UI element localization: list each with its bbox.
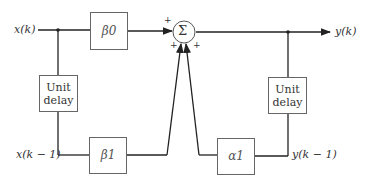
input-junction-dot <box>56 28 60 32</box>
beta1-gain-block: β1 <box>89 137 127 174</box>
right-delay-line2: delay <box>273 96 303 109</box>
output-delayed-label: y(k − 1) <box>292 148 337 161</box>
input-signal-label: x(k) <box>14 23 35 36</box>
alpha1-gain-block: α1 <box>217 138 255 175</box>
beta0-gain-block: β0 <box>90 12 128 50</box>
right-unit-delay-block: Unit delay <box>268 77 307 114</box>
beta1-label: β1 <box>101 149 116 162</box>
sum-sign-top: + <box>164 15 172 25</box>
right-delay-line1: Unit <box>275 83 299 96</box>
input-delayed-label: x(k − 1) <box>16 148 61 161</box>
output-junction-dot <box>286 30 290 34</box>
left-delay-line1: Unit <box>46 81 70 94</box>
left-delay-line2: delay <box>44 94 74 107</box>
sum-sign-left: + <box>170 40 178 50</box>
left-unit-delay-block: Unit delay <box>39 75 78 112</box>
summation-symbol: Σ <box>178 23 187 38</box>
beta0-label: β0 <box>102 25 117 38</box>
alpha1-label: α1 <box>228 150 244 163</box>
sum-sign-right: + <box>193 40 201 50</box>
output-signal-label: y(k) <box>335 25 356 38</box>
